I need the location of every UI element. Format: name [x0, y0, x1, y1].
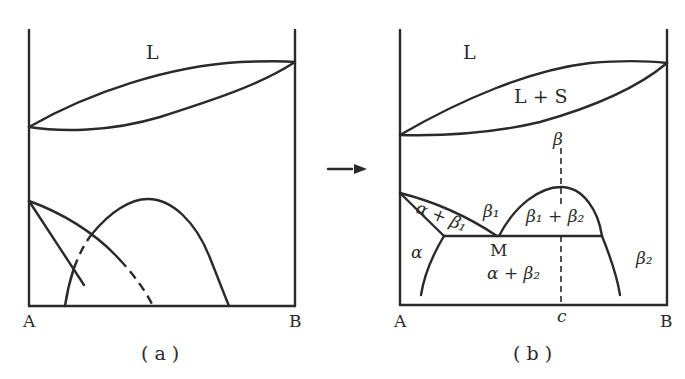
panel-a-miscibility-curve-solid — [29, 201, 120, 260]
phase-diagrams-canvas — [0, 0, 685, 379]
panel-b-axis-label-b: B — [660, 313, 673, 330]
panel-b-label-alpha: α — [411, 244, 422, 261]
panel-a-label-liquid: L — [146, 43, 159, 62]
panel-b-label-l-plus-s: L + S — [514, 87, 568, 106]
panel-a-caption: ( a ) — [141, 344, 179, 363]
arrow-head-icon — [354, 164, 367, 174]
panel-b-beta2-solvus — [602, 236, 620, 295]
panel-b-label-liquid: L — [463, 43, 476, 62]
panel-a-axis-label-b: B — [289, 313, 302, 330]
panel-a-diagram — [29, 30, 295, 306]
panel-a-solidus — [29, 62, 295, 130]
panel-b-label-beta1: β₁ — [483, 203, 500, 220]
panel-b-label-beta2: β₂ — [636, 250, 653, 267]
panel-b-label-beta: β — [553, 131, 563, 148]
panel-b-label-alpha-beta2: α + β₂ — [487, 265, 540, 282]
panel-b-axis-label-a: A — [394, 313, 406, 330]
panel-b-alpha-solvus — [421, 236, 444, 295]
transform-arrow — [328, 164, 367, 174]
panel-b-label-point-m: M — [490, 242, 507, 259]
panel-a-axis-label-a: A — [23, 313, 35, 330]
panel-b-axis-label-c: c — [557, 308, 567, 325]
panel-a-miscibility-curve-dashed — [120, 260, 153, 306]
panel-a-dome-left-dashed — [74, 234, 92, 268]
panel-b-caption: ( b ) — [513, 344, 552, 363]
panel-b-label-beta1-beta2: β₁ + β₂ — [526, 208, 584, 225]
panel-a-dome-left-solid — [65, 268, 74, 306]
